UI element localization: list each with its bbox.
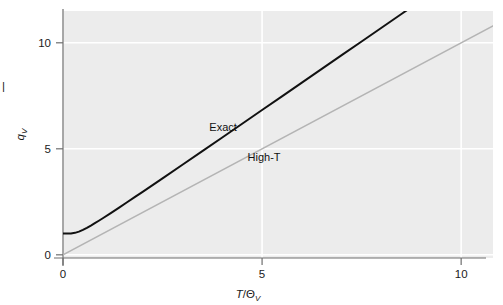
y-tick-label: 10 <box>38 37 51 49</box>
y-tick-label: 5 <box>45 143 51 155</box>
vibrational-partition-function-chart: 0510 0510 ExactHigh-T T/ΘV qV | <box>0 0 503 305</box>
annotation-high-t: High-T <box>248 151 281 163</box>
x-tick-label: 5 <box>259 268 265 280</box>
chart-figure: 0510 0510 ExactHigh-T T/ΘV qV | <box>0 0 503 305</box>
cropped-edge-mark: | <box>2 80 5 92</box>
x-tick-label: 10 <box>455 268 468 280</box>
annotation-exact: Exact <box>209 121 237 133</box>
x-tick-label: 0 <box>60 268 66 280</box>
y-tick-label: 0 <box>45 249 51 261</box>
